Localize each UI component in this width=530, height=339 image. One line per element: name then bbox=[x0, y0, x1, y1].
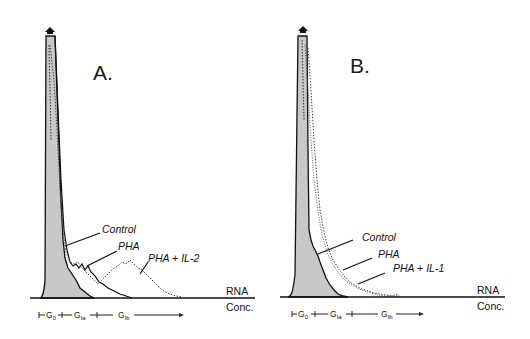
pointer-control-b bbox=[318, 240, 353, 254]
panel-b: B. Control PHA PHA + IL-1 RNA Conc. G0 G… bbox=[280, 26, 505, 320]
control-histogram-b bbox=[288, 36, 348, 297]
pointer-pha-a bbox=[87, 251, 117, 266]
panel-letter-a: A. bbox=[93, 61, 113, 84]
label-control-a: Control bbox=[102, 223, 137, 235]
pointer-pha-b bbox=[343, 258, 372, 270]
phase-g1b-b: GIb bbox=[381, 309, 393, 320]
figure: A. Control PHA PHA + IL-2 RNA Conc. G0 G… bbox=[0, 0, 530, 339]
phase-bar-a: G0 GIa GIb bbox=[39, 310, 184, 321]
phase-g0-b: G0 bbox=[298, 309, 309, 320]
phase-g1a-a: GIa bbox=[74, 310, 86, 321]
arrow-right-icon-a bbox=[179, 313, 184, 317]
arrow-right-icon-b bbox=[419, 312, 424, 316]
phase-g1b-a: GIb bbox=[118, 310, 130, 321]
panel-a: A. Control PHA PHA + IL-2 RNA Conc. G0 G… bbox=[30, 27, 255, 321]
phase-g0-a: G0 bbox=[46, 310, 57, 321]
label-pha-b: PHA bbox=[378, 248, 400, 260]
phase-bar-b: G0 GIa GIb bbox=[292, 309, 424, 320]
axis-label-conc-b: Conc. bbox=[477, 300, 504, 312]
label-pha-a: PHA bbox=[118, 240, 140, 252]
panel-letter-b: B. bbox=[350, 54, 370, 77]
offscale-arrow-stem-a bbox=[47, 31, 53, 34]
label-control-b: Control bbox=[362, 231, 397, 243]
label-pha-il-b: PHA + IL-1 bbox=[393, 262, 444, 274]
phase-g1a-b: GIa bbox=[330, 309, 342, 320]
pointer-pha-il-b bbox=[358, 273, 385, 284]
offscale-arrow-stem-b bbox=[300, 30, 306, 33]
pointer-control-a bbox=[65, 233, 100, 246]
control-histogram-a bbox=[40, 36, 94, 298]
axis-label-rna-b: RNA bbox=[477, 284, 499, 296]
label-pha-il-a: PHA + IL-2 bbox=[148, 252, 199, 264]
axis-label-rna-a: RNA bbox=[226, 285, 248, 297]
axis-label-conc-a: Conc. bbox=[226, 301, 253, 313]
